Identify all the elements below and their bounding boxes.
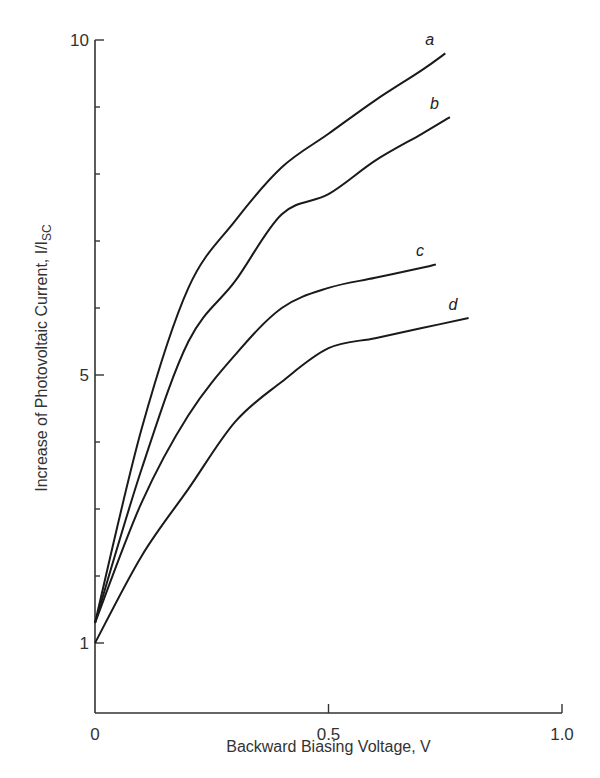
x-tick-label: 0 — [90, 725, 99, 744]
curve-label-c: c — [416, 242, 424, 259]
curve-label-b: b — [430, 95, 439, 112]
curve-a — [95, 53, 445, 623]
line-chart: 151000.51.0 Backward Biasing Voltage, VI… — [0, 0, 600, 778]
labels: Backward Biasing Voltage, VIncrease of P… — [33, 31, 459, 755]
x-axis-title: Backward Biasing Voltage, V — [226, 738, 431, 755]
y-axis-title: Increase of Photovoltaic Current, I/ISC — [33, 224, 54, 492]
y-tick-label: 5 — [80, 366, 89, 385]
curve-c — [95, 264, 436, 623]
y-tick-label: 1 — [80, 634, 89, 653]
y-tick-label: 10 — [70, 31, 89, 50]
curve-label-d: d — [449, 296, 459, 313]
curves — [95, 53, 469, 643]
x-tick-label: 1.0 — [550, 725, 574, 744]
curve-label-a: a — [425, 31, 434, 48]
